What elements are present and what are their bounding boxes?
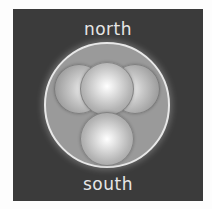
top-sphere	[80, 62, 134, 116]
outer-circle	[44, 42, 170, 168]
diagram-panel: north south	[13, 9, 203, 201]
bottom-sphere	[80, 112, 134, 166]
south-label: south	[13, 174, 203, 194]
north-label: north	[13, 19, 203, 39]
